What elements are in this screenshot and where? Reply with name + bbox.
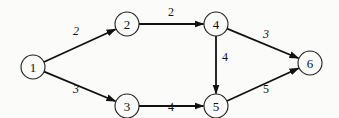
edge-weights: 2324435 — [72, 5, 269, 114]
node-label: 3 — [124, 99, 131, 114]
edge-1-to-3 — [44, 72, 115, 102]
node-label: 1 — [30, 60, 37, 75]
node-1: 1 — [21, 55, 45, 79]
node-label: 2 — [124, 17, 131, 32]
node-5: 5 — [204, 94, 228, 118]
node-3: 3 — [115, 94, 139, 118]
edges — [44, 24, 299, 106]
edge-weight-3-5: 4 — [168, 100, 174, 114]
edge-weight-4-6: 3 — [262, 27, 269, 41]
edge-weight-2-4: 2 — [168, 5, 174, 19]
network-diagram: 2324435 123456 — [0, 0, 339, 118]
edge-weight-4-5: 4 — [222, 50, 228, 64]
node-label: 6 — [307, 56, 314, 71]
node-6: 6 — [298, 51, 322, 75]
edge-weight-1-2: 2 — [73, 24, 79, 38]
edge-weight-5-6: 5 — [263, 82, 269, 96]
edge-1-to-2 — [44, 29, 116, 62]
node-2: 2 — [115, 12, 139, 36]
node-label: 4 — [213, 17, 220, 32]
node-label: 5 — [213, 99, 220, 114]
edge-weight-1-3: 3 — [72, 82, 79, 96]
node-4: 4 — [204, 12, 228, 36]
